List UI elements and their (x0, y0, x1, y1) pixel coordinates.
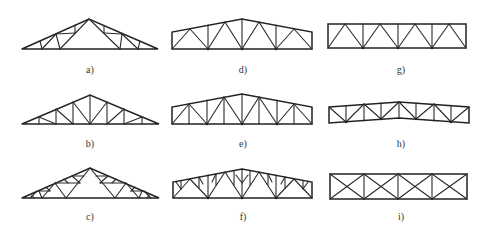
truss-e (172, 94, 312, 125)
truss-b (22, 95, 159, 124)
truss-diagram-canvas (0, 0, 485, 241)
panel-label-a: a) (86, 64, 94, 75)
panel-label-b: b) (86, 138, 94, 149)
panel-label-i: i) (398, 211, 404, 222)
truss-c (22, 168, 159, 198)
panel-label-f: f) (240, 211, 247, 222)
panel-label-g: g) (397, 64, 405, 75)
panel-label-e: e) (239, 138, 247, 149)
panel-label-c: c) (86, 211, 94, 222)
truss-a (22, 19, 158, 49)
panel-label-h: h) (397, 138, 405, 149)
truss-i (330, 174, 467, 199)
truss-g (328, 24, 466, 49)
panel-label-d: d) (239, 64, 247, 75)
truss-d (172, 19, 312, 50)
truss-h (329, 102, 469, 123)
truss-f (173, 169, 312, 199)
